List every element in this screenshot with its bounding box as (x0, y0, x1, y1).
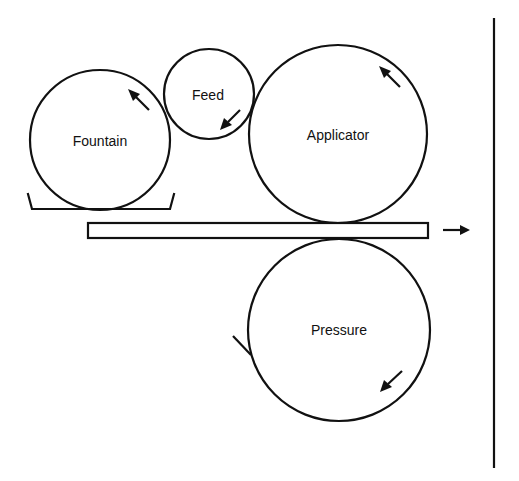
web-strip (88, 223, 428, 238)
web-direction-arrow-icon (443, 225, 470, 235)
applicator-roll: Applicator (249, 45, 427, 223)
feed-rotation-arrow-icon (220, 110, 240, 130)
feed-roll: Feed (164, 49, 254, 139)
feed-label: Feed (192, 87, 224, 103)
roll-coater-diagram: Fountain Feed Applicator Pressure (0, 0, 519, 481)
applicator-rotation-arrow-icon (379, 66, 400, 87)
fountain-tray (28, 194, 174, 209)
fountain-rotation-arrow-icon (128, 89, 149, 110)
applicator-label: Applicator (307, 127, 370, 143)
pressure-label: Pressure (311, 322, 367, 338)
fountain-roll: Fountain (30, 70, 170, 210)
pressure-roll: Pressure (233, 239, 430, 421)
fountain-label: Fountain (73, 133, 127, 149)
pressure-rotation-arrow-icon (380, 371, 402, 392)
